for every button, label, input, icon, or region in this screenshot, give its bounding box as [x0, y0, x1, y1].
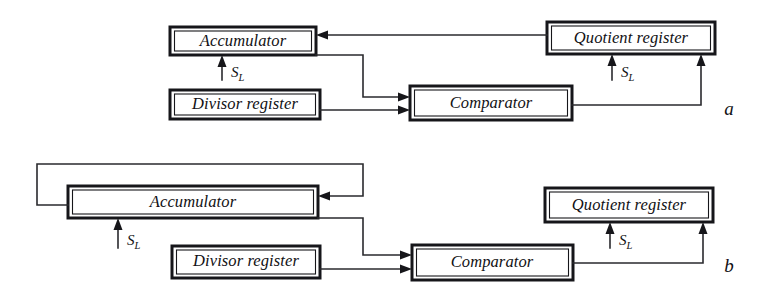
arrow-head-quotient-shift-b: [606, 222, 615, 234]
comparator-a-label: Comparator: [450, 93, 533, 112]
accumulator-a-label: Accumulator: [199, 31, 287, 50]
block-quotient-register-a[interactable]: Quotient register: [547, 22, 715, 54]
arrow-head-into-comparator-a-upper: [398, 93, 410, 102]
wire-divisor-to-comparator-a: [320, 106, 410, 115]
diagram-b-group: Accumulator Divisor register Comparator …: [37, 164, 734, 280]
arrow-head-accumulator-shift-a: [218, 55, 227, 67]
wire-accumulator-to-comparator-a: [316, 55, 410, 102]
signal-accumulator-shift-b: SL: [114, 218, 141, 251]
block-divisor-register-a[interactable]: Divisor register: [170, 90, 320, 119]
quotient-register-b-label: Quotient register: [572, 195, 687, 214]
block-comparator-b[interactable]: Comparator: [412, 245, 573, 280]
block-accumulator-a[interactable]: Accumulator: [170, 27, 316, 55]
arrow-head-into-accumulator-b: [318, 192, 330, 201]
wire-path-comparator-to-quotient-a: [572, 64, 701, 105]
quotient-register-a-label: Quotient register: [574, 28, 689, 47]
wire-quotient-to-accumulator-a: [316, 31, 547, 40]
panel-label-a: a: [724, 98, 734, 119]
wire-path-comparator-to-quotient-b: [573, 232, 703, 263]
wire-path-accumulator-to-comparator-a: [316, 55, 400, 97]
comparator-b-label: Comparator: [451, 252, 534, 271]
signal-quotient-shift-a: SL: [608, 54, 635, 83]
arrow-head-quotient-shift-a: [608, 54, 617, 66]
accumulator-b-label: Accumulator: [149, 192, 237, 211]
wire-accumulator-to-comparator-b: [318, 218, 412, 260]
signal-accumulator-shift-a: SL: [218, 55, 245, 83]
panel-label-b: b: [724, 255, 734, 276]
arrow-head-into-quotient-register-a: [697, 54, 706, 66]
arrow-head-into-comparator-b-lower: [400, 265, 412, 274]
divisor-register-a-label: Divisor register: [191, 94, 298, 113]
wire-path-accumulator-to-comparator-b: [318, 218, 402, 255]
arrow-head-into-accumulator-a: [316, 31, 328, 40]
block-quotient-register-b[interactable]: Quotient register: [545, 188, 713, 222]
block-divisor-register-b[interactable]: Divisor register: [172, 246, 320, 278]
divisor-register-b-label: Divisor register: [192, 251, 299, 270]
quotient-shift-label-a: SL: [621, 64, 635, 83]
arrow-head-into-quotient-register-b: [699, 222, 708, 234]
arrow-head-into-comparator-a-lower: [398, 106, 410, 115]
block-diagram-svg: Accumulator Divisor register Comparator …: [0, 0, 762, 298]
wire-comparator-to-quotient-a: [572, 54, 706, 105]
block-comparator-a[interactable]: Comparator: [410, 86, 572, 120]
accumulator-shift-label-a: SL: [231, 64, 245, 83]
wire-divisor-to-comparator-b: [320, 265, 412, 274]
block-accumulator-b[interactable]: Accumulator: [68, 186, 318, 218]
figure-root: Accumulator Divisor register Comparator …: [0, 0, 762, 298]
arrow-head-into-comparator-b-upper: [400, 251, 412, 260]
arrow-head-accumulator-shift-b: [114, 218, 123, 230]
wire-comparator-to-quotient-b: [573, 222, 708, 263]
signal-quotient-shift-b: SL: [606, 222, 633, 251]
diagram-a-group: Accumulator Divisor register Comparator …: [170, 22, 734, 120]
quotient-shift-label-b: SL: [619, 232, 633, 251]
accumulator-shift-label-b: SL: [127, 232, 141, 251]
